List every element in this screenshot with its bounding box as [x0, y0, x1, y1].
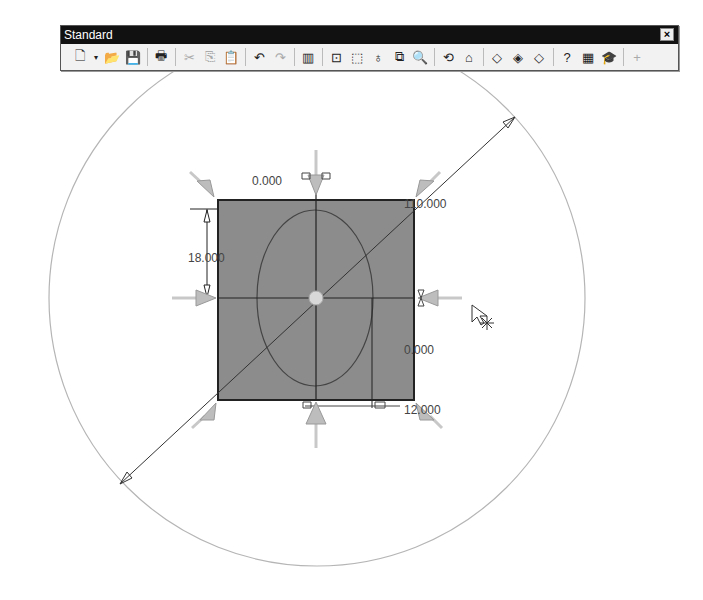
zoom-to-area-icon[interactable]: ⬚ [348, 48, 366, 66]
view-cube-3-icon[interactable]: ◇ [530, 48, 548, 66]
separator [322, 48, 323, 66]
dim-label-top[interactable]: 0.000 [252, 174, 282, 188]
close-button[interactable]: × [660, 28, 674, 41]
dim-arrow-up-icon [204, 210, 210, 222]
sketch-canvas[interactable] [0, 0, 703, 600]
origin-point[interactable] [309, 291, 323, 305]
handle-top-left-icon [197, 180, 214, 197]
print-icon[interactable]: 🖶 [152, 48, 170, 66]
add-icon[interactable]: + [628, 48, 646, 66]
undo-icon[interactable]: ↶ [250, 48, 268, 66]
copy-icon[interactable]: ⎘ [201, 48, 219, 66]
separator [623, 48, 624, 66]
dim-label-top-right[interactable]: 110.000 [404, 197, 447, 211]
separator [245, 48, 246, 66]
dim-label-bottom-right[interactable]: 12.000 [404, 403, 441, 417]
save-icon[interactable]: 💾 [124, 48, 142, 66]
zoom-to-fit-icon[interactable]: ⊡ [327, 48, 345, 66]
toolbar-buttons: 🗋 ▾ 📂 💾 🖶 ✂ ⎘ 📋 ↶ ↷ ▥ ⊡ ⬚ ♁ ⧉ 🔍 ⟲ ⌂ ◇ ◈ … [61, 44, 678, 70]
view-cube-2-icon[interactable]: ◈ [509, 48, 527, 66]
toolbar-titlebar[interactable]: Standard × [61, 26, 678, 44]
dim-label-left[interactable]: 18.000 [188, 251, 225, 265]
zoom-to-selection-icon[interactable]: ⧉ [390, 48, 408, 66]
handle-bottom-left-icon [200, 403, 216, 420]
pan-icon[interactable]: ⌂ [460, 48, 478, 66]
new-document-icon[interactable]: 🗋 [71, 48, 89, 66]
toolbar-title: Standard [64, 28, 113, 42]
view-cube-1-icon[interactable]: ◇ [488, 48, 506, 66]
rebuild-icon[interactable]: ▥ [299, 48, 317, 66]
dim-label-right[interactable]: 0.000 [404, 343, 434, 357]
separator [175, 48, 176, 66]
tutorial-icon[interactable]: 🎓 [600, 48, 618, 66]
mouse-cursor-icon [472, 305, 494, 330]
standard-toolbar[interactable]: Standard × 🗋 ▾ 📂 💾 🖶 ✂ ⎘ 📋 ↶ ↷ ▥ ⊡ ⬚ ♁ ⧉… [60, 25, 679, 71]
separator [294, 48, 295, 66]
separator [483, 48, 484, 66]
dropdown-arrow-icon[interactable]: ▾ [92, 48, 100, 66]
graphics-area[interactable]: 0.000 110.000 18.000 0.000 12.000 [0, 0, 703, 600]
handle-bottom-icon [306, 402, 326, 424]
redo-icon[interactable]: ↷ [271, 48, 289, 66]
separator [147, 48, 148, 66]
zoom-in-out-icon[interactable]: ♁ [369, 48, 387, 66]
paste-icon[interactable]: 📋 [222, 48, 240, 66]
help-icon[interactable]: ? [558, 48, 576, 66]
cut-icon[interactable]: ✂ [180, 48, 198, 66]
zoom-icon[interactable]: 🔍 [411, 48, 429, 66]
calculator-icon[interactable]: ▦ [579, 48, 597, 66]
separator [434, 48, 435, 66]
open-folder-icon[interactable]: 📂 [103, 48, 121, 66]
separator [553, 48, 554, 66]
rotate-view-icon[interactable]: ⟲ [439, 48, 457, 66]
